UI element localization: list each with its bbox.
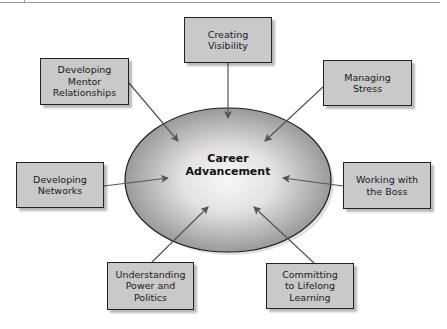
center-label: Career Advancement	[170, 153, 286, 178]
node-developing-networks: Developing Networks	[16, 162, 104, 208]
node-developing-mentor-relationships: Developing Mentor Relationships	[40, 58, 129, 105]
node-working-with-the-boss: Working with the Boss	[343, 162, 431, 209]
node-understanding-power-and-politics: Understanding Power and Politics	[107, 262, 194, 310]
node-committing-to-lifelong-learning: Committing to Lifelong Learning	[266, 263, 354, 309]
node-creating-visibility: Creating Visibility	[184, 17, 272, 63]
node-managing-stress: Managing Stress	[323, 60, 412, 106]
